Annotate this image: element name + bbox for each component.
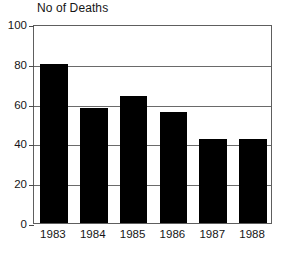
y-tick-label-20: 20: [14, 179, 27, 191]
bar-chart-figure: No of Deaths 020406080100 19831984198519…: [0, 0, 288, 254]
bar-1985: [120, 96, 148, 223]
x-tick-label-1985: 1985: [120, 228, 146, 240]
bar-1986: [160, 112, 188, 223]
bar-1984: [80, 108, 108, 223]
y-tick-label-40: 40: [14, 140, 27, 152]
plot-area: 020406080100: [33, 25, 272, 224]
bar-1988: [239, 139, 267, 223]
x-tick-label-1987: 1987: [199, 228, 225, 240]
chart-title: No of Deaths: [37, 1, 108, 15]
x-tick-label-1986: 1986: [160, 228, 186, 240]
x-tick-label-1983: 1983: [40, 228, 66, 240]
y-tick-label-0: 0: [21, 219, 27, 231]
bars-group: [34, 26, 271, 223]
y-tick-label-80: 80: [14, 60, 27, 72]
y-tick-label-100: 100: [8, 20, 27, 32]
x-tick-label-1988: 1988: [239, 228, 265, 240]
x-tick-label-1984: 1984: [80, 228, 106, 240]
bar-1987: [199, 139, 227, 223]
y-tick-mark-0: [29, 225, 34, 226]
bar-1983: [40, 64, 68, 223]
y-tick-label-60: 60: [14, 100, 27, 112]
